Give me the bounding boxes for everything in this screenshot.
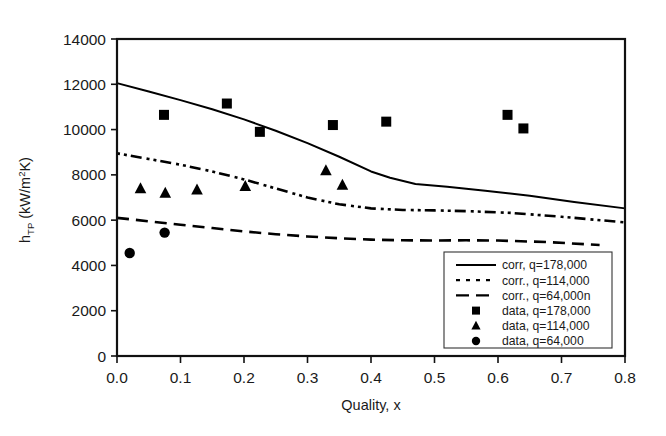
y-tick-label: 6000 bbox=[72, 212, 107, 229]
legend-entry-label: data, q=114,000 bbox=[502, 319, 590, 333]
chart-figure: 0.00.10.20.30.40.50.60.70.8 020004000600… bbox=[0, 0, 666, 436]
data-point-marker bbox=[503, 110, 513, 120]
x-axis-label: Quality, x bbox=[341, 397, 401, 413]
data-point-marker bbox=[159, 110, 169, 120]
y-axis-label-units-post: K) bbox=[17, 157, 33, 172]
y-tick-label: 8000 bbox=[72, 166, 107, 183]
y-axis-label-subscript: TP bbox=[25, 223, 36, 235]
y-axis-label-base: h bbox=[17, 235, 33, 243]
legend-entry-label: data, q=178,000 bbox=[502, 304, 591, 318]
legend-marker-swatch bbox=[472, 337, 480, 345]
legend-entry-label: corr, q=178,000 bbox=[502, 258, 587, 272]
x-tick-label: 0.3 bbox=[297, 369, 319, 386]
data-point-marker bbox=[159, 227, 169, 237]
x-tick-label: 0.6 bbox=[487, 369, 509, 386]
legend-entry-label: corr., q=114,000 bbox=[502, 274, 590, 288]
y-tick-label: 4000 bbox=[72, 257, 107, 274]
data-point-marker bbox=[125, 248, 135, 258]
y-tick-label: 2000 bbox=[72, 302, 107, 319]
data-point-marker bbox=[328, 120, 338, 130]
y-tick-label: 0 bbox=[97, 348, 106, 365]
x-tick-label: 0.5 bbox=[424, 369, 446, 386]
data-point-marker bbox=[518, 123, 528, 133]
data-point-marker bbox=[381, 117, 391, 127]
data-point-marker bbox=[255, 127, 265, 137]
heat-transfer-coefficient-scatter-chart: 0.00.10.20.30.40.50.60.70.8 020004000600… bbox=[0, 0, 666, 436]
x-tick-label: 0.1 bbox=[170, 369, 192, 386]
y-tick-label: 12000 bbox=[63, 76, 106, 93]
x-tick-label: 0.4 bbox=[360, 369, 382, 386]
x-tick-label: 0.0 bbox=[106, 369, 128, 386]
x-tick-label: 0.7 bbox=[551, 369, 573, 386]
chart-legend: corr, q=178,000corr., q=114,000corr., q=… bbox=[444, 252, 612, 348]
y-tick-label: 14000 bbox=[63, 31, 106, 48]
legend-entry-label: corr., q=64,000n bbox=[502, 289, 590, 303]
legend-entry-label: data, q=64,000 bbox=[502, 334, 584, 348]
data-point-marker bbox=[222, 99, 232, 109]
y-axis-label-units-pre: (kW/m bbox=[17, 177, 33, 223]
y-tick-label: 10000 bbox=[63, 121, 106, 138]
x-tick-label: 0.8 bbox=[614, 369, 636, 386]
x-tick-label: 0.2 bbox=[233, 369, 255, 386]
legend-marker-swatch bbox=[472, 307, 480, 315]
